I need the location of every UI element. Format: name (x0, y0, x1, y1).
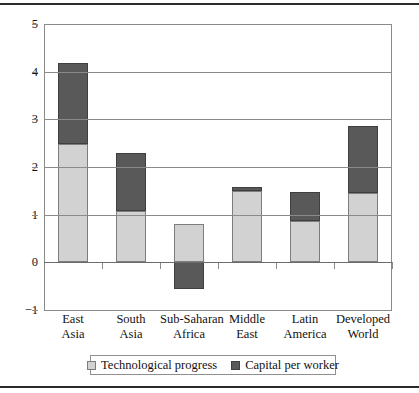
legend-item-technological-progress: Technological progress (87, 359, 217, 372)
x-axis-label-line: Sub-Saharan (160, 312, 218, 327)
x-axis-tick (160, 262, 161, 269)
bar-segment-technological-progress[interactable] (348, 193, 378, 262)
x-axis-label-line: South (102, 312, 160, 327)
bar-segment-technological-progress[interactable] (232, 191, 262, 262)
bar-segment-capital-per-worker[interactable] (232, 187, 262, 191)
gridline-1 (44, 215, 392, 216)
bar-segment-capital-per-worker[interactable] (116, 153, 146, 211)
x-axis-label-line: Asia (44, 327, 102, 342)
bottom-rule (0, 386, 419, 388)
x-axis-label-line: Latin (276, 312, 334, 327)
y-tick-mark (32, 215, 38, 216)
bar-segment-technological-progress[interactable] (116, 211, 146, 262)
x-axis-label-line: World (334, 327, 392, 342)
plot-area (44, 24, 392, 310)
bar-segment-capital-per-worker[interactable] (290, 192, 320, 221)
x-axis-label-line: East (44, 312, 102, 327)
gridline-3 (44, 119, 392, 120)
x-axis-label-south-asia: SouthAsia (102, 312, 160, 342)
bar-segment-capital-per-worker[interactable] (174, 262, 204, 288)
y-tick-mark (32, 167, 38, 168)
x-axis-label-line: Developed (334, 312, 392, 327)
x-axis-label-line: East (218, 327, 276, 342)
top-rule (0, 3, 419, 5)
chart-legend: Technological progress Capital per worke… (90, 355, 336, 375)
dark-gray-swatch-icon (231, 361, 240, 370)
bar-segment-technological-progress[interactable] (174, 224, 204, 262)
gridline-4 (44, 72, 392, 73)
x-axis-label-developed-world: DevelopedWorld (334, 312, 392, 342)
y-axis: 543210−1 (0, 24, 38, 310)
x-axis-label-sub-saharan-africa: Sub-SaharanAfrica (160, 312, 218, 342)
x-axis-label-latin-america: LatinAmerica (276, 312, 334, 342)
x-axis-label-middle-east: MiddleEast (218, 312, 276, 342)
legend-label-technological-progress: Technological progress (101, 359, 217, 372)
light-gray-swatch-icon (87, 361, 96, 370)
x-axis-label-line: Middle (218, 312, 276, 327)
gridline-0 (44, 262, 392, 263)
y-tick-mark (32, 119, 38, 120)
x-axis-label-line: Asia (102, 327, 160, 342)
gridline-neg1 (44, 310, 392, 311)
x-axis-tick (102, 262, 103, 269)
y-tick-mark (32, 72, 38, 73)
x-axis-tick (276, 262, 277, 269)
bar-segment-technological-progress[interactable] (58, 144, 88, 262)
x-axis-label-line: America (276, 327, 334, 342)
x-axis-tick (392, 262, 393, 269)
bar-segment-capital-per-worker[interactable] (58, 63, 88, 144)
y-tick-mark (32, 24, 38, 25)
x-axis-label-line: Africa (160, 327, 218, 342)
x-axis-tick (334, 262, 335, 269)
figure-container: 543210−1 EastAsiaSouthAsiaSub-SaharanAfr… (0, 0, 419, 393)
x-axis-label-east-asia: EastAsia (44, 312, 102, 342)
bar-segment-capital-per-worker[interactable] (348, 126, 378, 193)
legend-item-capital-per-worker: Capital per worker (231, 359, 339, 372)
y-tick-mark (32, 262, 38, 263)
x-axis-category-labels: EastAsiaSouthAsiaSub-SaharanAfricaMiddle… (44, 312, 392, 352)
y-tick-mark (32, 310, 38, 311)
bar-segment-technological-progress[interactable] (290, 221, 320, 262)
gridline-2 (44, 167, 392, 168)
x-axis-tick (218, 262, 219, 269)
legend-label-capital-per-worker: Capital per worker (245, 359, 339, 372)
